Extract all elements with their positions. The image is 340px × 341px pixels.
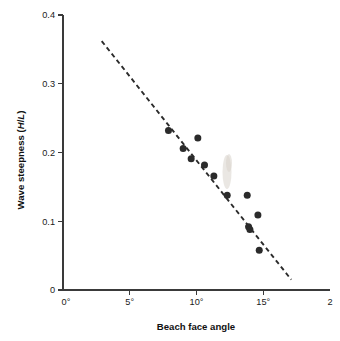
x-axis-ticks: 0°5°10°15°2 — [62, 290, 333, 307]
x-tick-label: 5° — [125, 297, 134, 307]
scan-artifact — [223, 154, 233, 189]
data-point — [201, 161, 208, 168]
x-axis-title: Beach face angle — [157, 321, 235, 332]
chart-container: 00.10.20.30.4 0°5°10°15°2 Beach face ang… — [0, 0, 340, 341]
scatter-plot: 00.10.20.30.4 0°5°10°15°2 Beach face ang… — [0, 0, 340, 341]
y-tick-label: 0.2 — [42, 148, 55, 158]
data-point — [210, 172, 217, 179]
data-point — [180, 145, 187, 152]
plot-axes — [63, 15, 330, 290]
y-tick-label: 0.1 — [42, 217, 55, 227]
data-point — [165, 127, 172, 134]
x-tick-label: 0° — [62, 297, 71, 307]
y-axis-title: Wave steepness (H/L) — [15, 111, 26, 210]
y-tick-label: 0.3 — [42, 79, 55, 89]
data-points-group — [165, 127, 263, 254]
y-tick-label: 0.4 — [42, 10, 55, 20]
data-point — [188, 155, 195, 162]
data-point — [194, 135, 201, 142]
y-axis-title-suffix: ) — [15, 111, 26, 114]
data-point — [224, 192, 231, 199]
x-tick-label: 10° — [190, 297, 204, 307]
data-point — [246, 226, 253, 233]
trend-line-group — [102, 41, 292, 280]
y-axis-title-prefix: Wave steepness ( — [15, 128, 26, 209]
data-point — [254, 212, 261, 219]
y-axis-ticks: 00.10.20.30.4 — [42, 10, 63, 295]
data-point — [244, 192, 251, 199]
trend-line — [102, 41, 292, 280]
x-tick-label: 15° — [256, 297, 270, 307]
data-point — [256, 247, 263, 254]
x-tick-label: 2 — [327, 297, 332, 307]
y-tick-label: 0 — [50, 285, 55, 295]
